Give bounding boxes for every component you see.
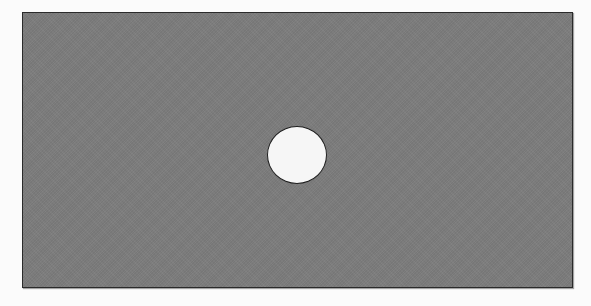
diagram-canvas xyxy=(0,0,591,306)
circular-hole xyxy=(267,126,327,184)
